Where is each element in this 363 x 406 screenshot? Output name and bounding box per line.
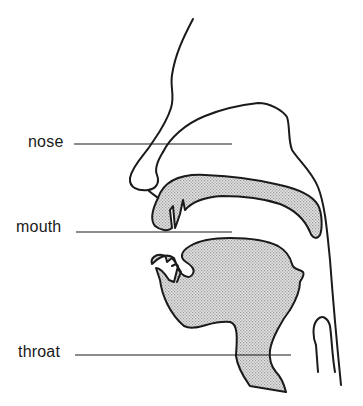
upper-lip-outline bbox=[148, 190, 158, 198]
nose-label: nose bbox=[28, 134, 64, 150]
palate-shape bbox=[152, 175, 321, 238]
mouth-label: mouth bbox=[16, 219, 61, 235]
throat-label: throat bbox=[18, 344, 60, 360]
tongue-shape bbox=[152, 238, 304, 392]
epiglottis-outline bbox=[314, 317, 336, 372]
face-profile-outline bbox=[130, 19, 193, 190]
